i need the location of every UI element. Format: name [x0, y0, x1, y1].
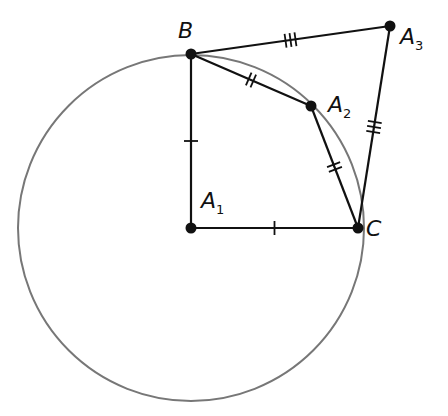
congruence-tick-mark	[368, 121, 382, 123]
label-a1: A1	[201, 190, 224, 216]
point-b	[186, 49, 197, 60]
point-a3	[385, 21, 396, 32]
label-b: B	[178, 20, 193, 42]
segment-b-a2	[191, 54, 311, 106]
label-a3: A3	[400, 26, 423, 52]
point-c	[353, 223, 364, 234]
point-a1	[186, 223, 197, 234]
congruence-tick-mark	[285, 34, 287, 48]
geometry-diagram: B A1 C A2 A3	[0, 0, 448, 416]
label-a2: A2	[328, 94, 351, 120]
congruence-tick-mark	[367, 126, 381, 128]
congruence-tick-mark	[366, 131, 380, 133]
congruence-tick-mark	[290, 33, 292, 47]
point-a2	[306, 101, 317, 112]
label-c: C	[366, 218, 381, 240]
congruence-tick-mark	[294, 32, 296, 46]
segment-a2-c	[311, 106, 358, 228]
